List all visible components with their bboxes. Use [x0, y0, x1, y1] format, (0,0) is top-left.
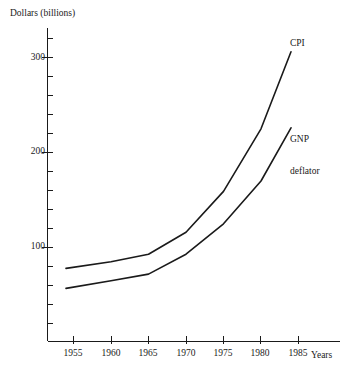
- series-label-gnp-line1: GNP: [290, 134, 320, 145]
- x-tick-label-1955: 1955: [56, 348, 90, 359]
- series-line-gnp-deflator: [66, 128, 291, 289]
- y-axis-minor-ticks: [48, 39, 54, 324]
- series-line-cpi: [66, 52, 291, 269]
- x-tick-label-1980: 1980: [243, 348, 277, 359]
- series-label-gnp-deflator: GNP deflator: [290, 113, 320, 198]
- series-label-gnp-line2: deflator: [290, 166, 320, 177]
- x-axis-title: Years: [311, 350, 332, 361]
- y-axis-title: Dollars (billions): [10, 8, 75, 19]
- series-label-cpi: CPI: [290, 38, 305, 49]
- x-axis-ticks: [74, 336, 299, 344]
- y-tick-label-300: 300: [19, 52, 45, 63]
- x-tick-label-1970: 1970: [169, 348, 203, 359]
- y-tick-label-200: 200: [19, 146, 45, 157]
- x-tick-label-1965: 1965: [131, 348, 165, 359]
- x-tick-label-1960: 1960: [94, 348, 128, 359]
- y-tick-label-100: 100: [19, 241, 45, 252]
- chart-figure: Dollars (billions) 300 200 100 1955 1960…: [0, 0, 354, 373]
- x-tick-label-1985: 1985: [281, 348, 315, 359]
- x-tick-label-1975: 1975: [206, 348, 240, 359]
